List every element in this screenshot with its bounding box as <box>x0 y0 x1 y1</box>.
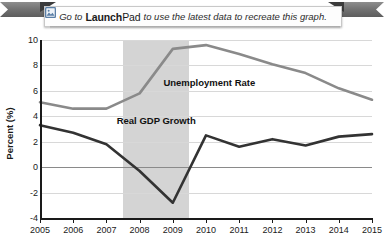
x-tick-label: 2013 <box>296 225 316 235</box>
series-label-real-gdp-growth: Real GDP Growth <box>117 115 196 126</box>
x-tick-label: 2011 <box>230 225 249 235</box>
series-label-unemployment-rate: Unemployment Rate <box>163 77 255 88</box>
y-tick-label: 10 <box>12 35 38 45</box>
banner-shadow <box>50 26 340 29</box>
x-tick-label: 2006 <box>63 225 83 235</box>
launchpad-image-icon <box>45 7 56 18</box>
launchpad-banner: Go to LaunchPad to use the latest data t… <box>0 0 384 32</box>
y-tick-label: 8 <box>12 60 38 70</box>
x-tick-mark <box>372 218 373 223</box>
x-tick-mark <box>73 218 74 223</box>
y-tick-label: -2 <box>12 188 38 198</box>
brand-bold: Launch <box>85 11 122 23</box>
x-tick-mark <box>40 218 41 223</box>
ribbon-tail-left <box>0 2 46 17</box>
launchpad-banner-box[interactable]: Go to LaunchPad to use the latest data t… <box>44 6 342 27</box>
y-axis-line <box>40 40 42 219</box>
x-tick-mark <box>339 218 340 223</box>
x-tick-mark <box>173 218 174 223</box>
y-tick-label: 0 <box>12 162 38 172</box>
x-tick-label: 2008 <box>130 225 150 235</box>
series-line-real-gdp-growth <box>40 125 372 203</box>
x-tick-label: 2012 <box>262 225 282 235</box>
x-tick-mark <box>106 218 107 223</box>
y-axis-ticks: 1086420-2-4 <box>8 32 38 242</box>
x-tick-mark <box>272 218 273 223</box>
plot-area: Unemployment Rate Real GDP Growth <box>40 40 372 218</box>
y-tick-label: 2 <box>12 137 38 147</box>
brand-light: Pad <box>122 11 140 23</box>
y-tick-label: 6 <box>12 86 38 96</box>
banner-trail-text: to use the latest data to recreate this … <box>144 11 327 22</box>
x-tick-mark <box>206 218 207 223</box>
economic-indicators-chart: Percent (%) 1086420-2-4 Unemployment Rat… <box>0 32 384 242</box>
series-lines <box>40 40 372 218</box>
x-tick-mark <box>306 218 307 223</box>
x-tick-label: 2007 <box>96 225 116 235</box>
y-tick-label: -4 <box>12 213 38 223</box>
banner-lead-text: Go to <box>59 11 82 22</box>
x-tick-label: 2010 <box>196 225 216 235</box>
ribbon-tail-right <box>338 2 384 17</box>
x-tick-label: 2015 <box>362 225 382 235</box>
x-tick-mark <box>239 218 240 223</box>
x-tick-label: 2009 <box>163 225 183 235</box>
x-tick-label: 2014 <box>329 225 349 235</box>
y-tick-label: 4 <box>12 111 38 121</box>
x-tick-mark <box>140 218 141 223</box>
launchpad-brand: LaunchPad <box>85 11 140 23</box>
x-tick-label: 2005 <box>30 225 50 235</box>
